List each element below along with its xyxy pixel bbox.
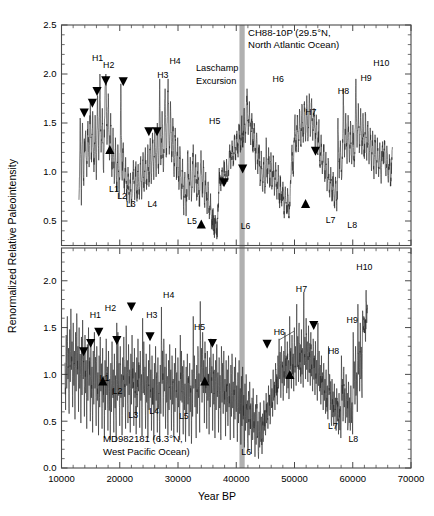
low-label-L5: L5 bbox=[179, 411, 189, 421]
xtick-label-50000: 50000 bbox=[281, 473, 307, 484]
xtick-label-20000: 20000 bbox=[107, 473, 133, 484]
ytick-label-2.0: 2.0 bbox=[43, 275, 56, 286]
y-axis-title: Renormalized Relative Paleointensity bbox=[6, 158, 18, 333]
xtick-label-70000: 70000 bbox=[398, 473, 424, 484]
low-label-L8: L8 bbox=[347, 220, 357, 230]
low-label-L4: L4 bbox=[147, 199, 157, 209]
low-label-L6: L6 bbox=[241, 221, 251, 231]
low-label-L2: L2 bbox=[113, 386, 123, 396]
xtick-label-40000: 40000 bbox=[223, 473, 249, 484]
low-label-L3: L3 bbox=[128, 410, 138, 420]
high-label-H5: H5 bbox=[209, 116, 220, 126]
high-label-H10: H10 bbox=[356, 262, 372, 272]
ytick-label-1.5: 1.5 bbox=[43, 322, 56, 333]
ytick-label-0.5: 0.5 bbox=[43, 215, 56, 226]
ytick-label-1.0: 1.0 bbox=[43, 369, 56, 380]
high-label-H4: H4 bbox=[169, 56, 180, 66]
low-label-L4: L4 bbox=[149, 406, 159, 416]
high-label-H6: H6 bbox=[274, 327, 285, 337]
low-label-L8: L8 bbox=[348, 434, 358, 444]
low-label-L6: L6 bbox=[241, 447, 251, 457]
high-label-H3: H3 bbox=[146, 310, 157, 320]
high-label-H1: H1 bbox=[92, 53, 103, 63]
xtick-label-60000: 60000 bbox=[340, 473, 366, 484]
low-label-L7: L7 bbox=[326, 215, 336, 225]
paleointensity-chart: 0.51.01.52.02.50.00.51.01.52.01000020000… bbox=[0, 0, 434, 516]
high-label-H7: H7 bbox=[296, 284, 307, 294]
ytick-label-2.0: 2.0 bbox=[43, 68, 56, 79]
high-label-H8: H8 bbox=[328, 346, 339, 356]
core-label-top-line2: North Atlantic Ocean) bbox=[248, 39, 339, 50]
core-label-bottom-line1: MD982181 (6.3°N, bbox=[103, 433, 183, 444]
low-label-L3: L3 bbox=[126, 199, 136, 209]
excursion-label-line2: Excursion bbox=[196, 76, 236, 86]
high-label-H8: H8 bbox=[338, 86, 349, 96]
ytick-label-1.0: 1.0 bbox=[43, 166, 56, 177]
ytick-label-2.5: 2.5 bbox=[43, 19, 56, 30]
high-label-H2: H2 bbox=[105, 303, 116, 313]
core-label-top-line1: CH88-10P (29.5°N, bbox=[248, 27, 331, 38]
high-label-H7: H7 bbox=[305, 107, 316, 117]
high-label-H1: H1 bbox=[90, 310, 101, 320]
paleointensity-figure: 0.51.01.52.02.50.00.51.01.52.01000020000… bbox=[0, 0, 434, 516]
xtick-label-10000: 10000 bbox=[48, 473, 74, 484]
excursion-label-line1: Laschamp bbox=[196, 63, 238, 73]
high-label-H9: H9 bbox=[347, 315, 358, 325]
high-label-H6: H6 bbox=[273, 74, 284, 84]
ytick-label-0.5: 0.5 bbox=[43, 416, 56, 427]
high-label-H5: H5 bbox=[194, 322, 205, 332]
high-label-H2: H2 bbox=[103, 60, 114, 70]
high-label-H9: H9 bbox=[361, 73, 372, 83]
high-label-H10: H10 bbox=[373, 58, 389, 68]
high-label-H3: H3 bbox=[157, 70, 168, 80]
low-label-L1: L1 bbox=[100, 373, 110, 383]
low-label-L7: L7 bbox=[328, 421, 338, 431]
x-axis-title: Year BP bbox=[198, 490, 236, 502]
core-label-bottom-line2: West Pacific Ocean) bbox=[103, 446, 190, 457]
high-label-H4: H4 bbox=[163, 290, 174, 300]
ytick-label-1.5: 1.5 bbox=[43, 117, 56, 128]
xtick-label-30000: 30000 bbox=[165, 473, 191, 484]
ytick-label-0.0: 0.0 bbox=[43, 462, 56, 473]
low-label-L5: L5 bbox=[187, 216, 197, 226]
